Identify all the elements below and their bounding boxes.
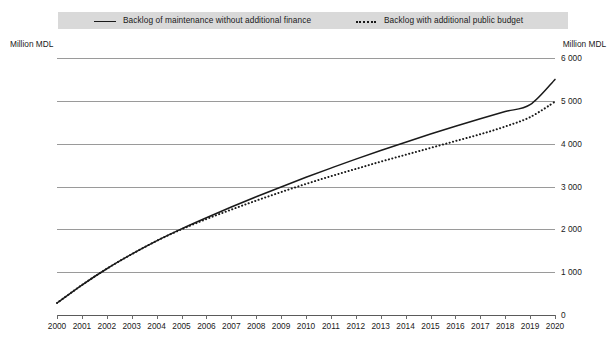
x-tick-mark-2009 [281,315,282,319]
y-tick-label-right-4000: 4 000 [561,140,582,148]
y-tick-label-right-3000: 3 000 [561,183,582,191]
left-axis-caption: Million MDL [10,40,53,48]
x-tick-label-2004: 2004 [147,322,165,330]
x-tick-label-2019: 2019 [521,322,539,330]
y-tick-label-right-6000: 6 000 [561,54,582,62]
x-tick-mark-2001 [82,315,83,319]
x-tick-mark-2008 [256,315,257,319]
x-tick-mark-2019 [530,315,531,319]
x-tick-label-2017: 2017 [471,322,489,330]
x-tick-mark-2002 [107,315,108,319]
x-tick-label-2010: 2010 [297,322,315,330]
x-tick-mark-2011 [331,315,332,319]
x-tick-mark-2012 [356,315,357,319]
x-tick-label-2012: 2012 [347,322,365,330]
x-tick-label-2000: 2000 [48,322,66,330]
x-tick-mark-2013 [381,315,382,319]
x-tick-label-2018: 2018 [496,322,514,330]
x-tick-mark-2006 [206,315,207,319]
x-tick-mark-2017 [480,315,481,319]
legend-entry-backlog-without-additional-finance: Backlog of maintenance without additiona… [94,12,311,29]
x-tick-mark-2020 [555,315,556,319]
x-tick-label-2011: 2011 [322,322,340,330]
x-tick-mark-2018 [505,315,506,319]
x-tick-label-2002: 2002 [98,322,116,330]
plot-area: 01 0002 0003 0004 0005 0006 000 01 0002 … [57,58,555,315]
x-tick-label-2007: 2007 [222,322,240,330]
y-tick-label-right-1000: 1 000 [561,268,582,276]
x-tick-label-2013: 2013 [371,322,389,330]
x-tick-label-2008: 2008 [247,322,265,330]
series-line-0 [57,79,555,303]
x-tick-label-2014: 2014 [396,322,414,330]
x-tick-label-2003: 2003 [122,322,140,330]
legend-label-0: Backlog of maintenance without additiona… [123,16,311,24]
legend-entry-backlog-with-additional-public-budget: Backlog with additional public budget [355,12,523,29]
legend-swatch-dotted-line-icon [355,12,377,29]
y-tick-label-right-2000: 2 000 [561,225,582,233]
x-tick-label-2016: 2016 [446,322,464,330]
x-tick-mark-2016 [455,315,456,319]
y-tick-label-right-5000: 5 000 [561,97,582,105]
right-axis-caption: Million MDL [563,40,606,48]
x-tick-mark-2015 [431,315,432,319]
x-tick-label-2005: 2005 [172,322,190,330]
legend-swatch-solid-line-icon [94,12,116,29]
x-tick-mark-2004 [157,315,158,319]
x-tick-mark-2014 [406,315,407,319]
x-tick-label-2001: 2001 [73,322,91,330]
x-tick-label-2009: 2009 [272,322,290,330]
x-tick-mark-2003 [132,315,133,319]
x-tick-label-2006: 2006 [197,322,215,330]
series-lines [57,58,555,315]
x-tick-mark-2007 [231,315,232,319]
x-tick-mark-2000 [57,315,58,319]
x-tick-label-2020: 2020 [546,322,564,330]
x-tick-mark-2010 [306,315,307,319]
chart-figure: Backlog of maintenance without additiona… [0,0,612,351]
legend-label-1: Backlog with additional public budget [384,16,523,24]
series-line-1 [57,102,555,303]
x-tick-label-2015: 2015 [421,322,439,330]
x-tick-mark-2005 [182,315,183,319]
chart-legend: Backlog of maintenance without additiona… [58,12,568,29]
y-tick-label-right-0: 0 [561,311,566,319]
